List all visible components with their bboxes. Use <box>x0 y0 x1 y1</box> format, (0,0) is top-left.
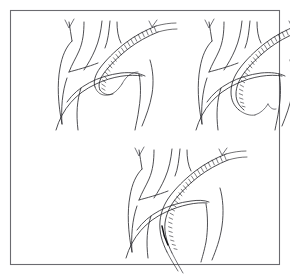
figure-root <box>0 0 290 276</box>
figure-background <box>0 0 290 276</box>
aortic-stent-illustration <box>0 0 290 276</box>
